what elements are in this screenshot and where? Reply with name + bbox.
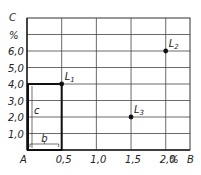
x-tick-label: 1,5 xyxy=(125,154,141,165)
x-tick-label: 1,0 xyxy=(90,154,106,165)
y-tick-label: 3,0 xyxy=(8,96,24,107)
y-tick-label: 2,0 xyxy=(8,112,24,123)
origin-label: A xyxy=(19,154,27,165)
data-point-label: L1 xyxy=(65,71,75,84)
data-point-label-subscript: 1 xyxy=(70,76,74,84)
data-point xyxy=(163,49,168,54)
x-unit-label: % xyxy=(169,154,179,165)
y-tick-label: 5,0 xyxy=(8,63,24,74)
chart: cb 0,51,01,52,01,02,03,04,05,06,0 L1L2L3… xyxy=(0,0,201,175)
y-unit-label: % xyxy=(9,30,19,41)
dimension-b-label: b xyxy=(41,133,47,144)
data-points: L1L2L3 xyxy=(59,38,179,119)
y-tick-label: 6,0 xyxy=(8,46,24,57)
dimension-c-label: c xyxy=(34,105,40,116)
data-point-label: L2 xyxy=(169,38,180,51)
x-axis-label: B xyxy=(187,154,194,165)
data-point-label-subscript: 3 xyxy=(140,109,144,117)
x-tick-label: 0,5 xyxy=(56,154,72,165)
data-point xyxy=(59,82,64,87)
y-axis-label: C xyxy=(9,12,16,23)
data-point xyxy=(129,115,134,120)
y-tick-label: 1,0 xyxy=(8,129,24,140)
y-tick-label: 4,0 xyxy=(8,79,24,90)
data-point-label: L3 xyxy=(134,104,144,117)
data-point-label-subscript: 2 xyxy=(174,43,179,51)
